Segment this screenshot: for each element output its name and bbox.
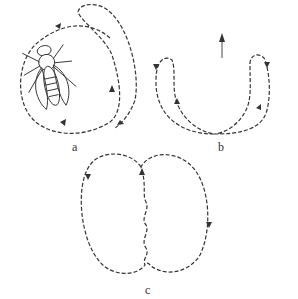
fly-icon <box>19 41 81 113</box>
arrow-icon <box>174 98 180 104</box>
arrow-icon <box>117 120 124 125</box>
arrow-icon <box>60 119 66 126</box>
flight-path-b-left <box>156 55 269 134</box>
flight-path-c <box>81 154 208 273</box>
panel-label-b: b <box>218 140 224 155</box>
panel-label-a: a <box>72 140 77 155</box>
arrow-icon <box>139 168 145 175</box>
arrow-icon <box>109 85 115 92</box>
arrow-icon <box>256 104 261 110</box>
up-arrow-icon <box>219 33 225 42</box>
panel-b <box>153 33 270 134</box>
panel-a <box>21 5 137 134</box>
flight-path-a <box>21 5 137 134</box>
panel-c <box>81 154 212 273</box>
figure-canvas <box>0 0 298 299</box>
arrow-icon <box>55 23 61 29</box>
arrow-icon <box>85 174 91 180</box>
panel-label-c: c <box>145 283 150 298</box>
arrow-icon <box>264 62 270 68</box>
